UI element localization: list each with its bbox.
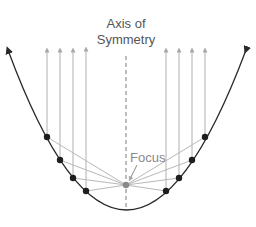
axis-title-line2: Symmetry [97, 32, 156, 47]
parabola-diagram: Axis of Symmetry Focus [0, 0, 256, 227]
focus-pointer-line [130, 165, 137, 179]
axis-title-line1: Axis of [106, 16, 145, 31]
focus-label: Focus [130, 150, 166, 165]
focus-point [123, 182, 129, 188]
